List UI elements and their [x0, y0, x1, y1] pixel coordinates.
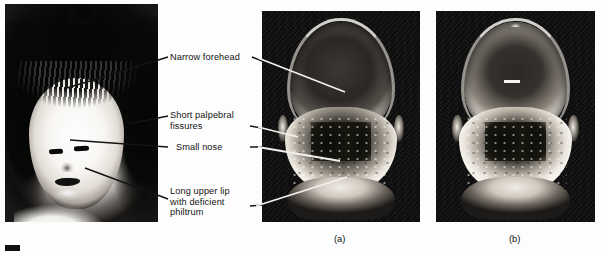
caption-panel-b: (b): [509, 233, 520, 244]
annotation-small-nose: Small nose: [176, 142, 222, 153]
leader-narrow-forehead-right: [258, 58, 345, 92]
leader-short-palpebral-left: [128, 116, 168, 124]
figure-number-mark: [5, 245, 20, 251]
caption-panel-a: (a): [334, 233, 345, 244]
leader-small-nose-left: [70, 140, 168, 147]
leader-short-palpebral-right: [258, 127, 298, 137]
annotation-long-upper-lip: Long upper lip with deficient philtrum: [170, 186, 230, 218]
leader-narrow-forehead-left: [67, 57, 168, 88]
annotation-narrow-forehead: Narrow forehead: [170, 52, 240, 63]
leader-long-upper-lip-left: [85, 168, 168, 199]
leader-long-upper-lip-right: [256, 177, 347, 206]
leader-small-nose-right: [258, 147, 340, 161]
figure-container: Narrow forehead Short palpebral fissures…: [0, 0, 601, 256]
annotation-short-palpebral-fissures: Short palpebral fissures: [170, 110, 234, 131]
leader-lines-overlay: [0, 0, 601, 256]
